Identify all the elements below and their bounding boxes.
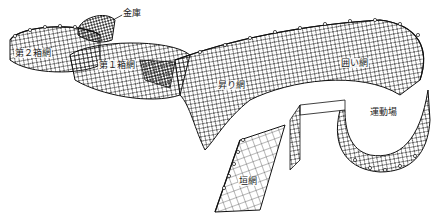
label-playground: 運動場 [369, 107, 398, 117]
label-second-box-net: 第２箱網 [14, 48, 52, 58]
kinko-net [78, 14, 124, 42]
label-climbing-net: 昇り網 [217, 80, 246, 90]
label-first-box-net: 第１箱網 [98, 60, 136, 70]
label-enclosure-net: 囲い網 [340, 58, 369, 68]
playground-net [290, 90, 430, 172]
leader-net [215, 125, 285, 212]
first-box-net [70, 43, 190, 99]
label-leader-net: 垣網 [238, 176, 258, 186]
label-kinko: 金庫 [122, 8, 142, 18]
